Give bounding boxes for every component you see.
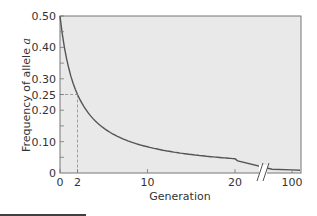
y-tick-label: 0.10	[32, 136, 57, 149]
x-tick-label: 20	[228, 176, 242, 189]
y-tick-label: 0	[49, 167, 56, 180]
chart: 00.100.200.250.300.400.50 021020100 Gene…	[0, 0, 317, 216]
plot-area	[60, 16, 301, 173]
x-tick-label: 100	[282, 176, 303, 189]
y-axis-ticks: 00.100.200.250.300.400.50	[32, 10, 65, 180]
y-tick-label: 0.50	[32, 10, 57, 23]
y-tick-label: 0.40	[32, 41, 57, 54]
y-tick-label: 0.30	[32, 73, 57, 86]
x-axis-label: Generation	[149, 190, 210, 203]
y-tick-label: 0.20	[32, 104, 57, 117]
x-tick-label: 10	[141, 176, 155, 189]
y-axis-label: Frequency of allele a	[20, 38, 33, 152]
x-tick-label: 2	[74, 176, 81, 189]
x-tick-label: 0	[57, 176, 64, 189]
y-tick-label: 0.25	[32, 89, 57, 102]
